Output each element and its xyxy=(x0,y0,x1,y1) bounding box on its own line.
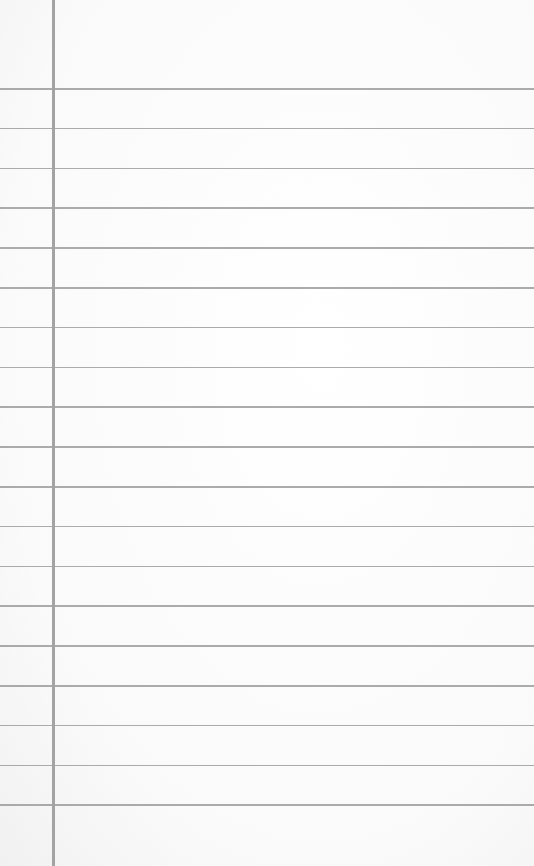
margin-line xyxy=(52,0,55,866)
ruled-line xyxy=(0,645,534,647)
ruled-line xyxy=(0,486,534,488)
ruled-line xyxy=(0,685,534,687)
ruled-line xyxy=(0,566,534,568)
ruled-line xyxy=(0,168,534,170)
ruled-line xyxy=(0,367,534,369)
ruled-line xyxy=(0,526,534,528)
ruled-line xyxy=(0,88,534,90)
ruled-line xyxy=(0,804,534,806)
ruled-line xyxy=(0,207,534,209)
ruled-line xyxy=(0,406,534,408)
ruled-line xyxy=(0,247,534,249)
ruled-line xyxy=(0,446,534,448)
ruled-line xyxy=(0,287,534,289)
ruled-line xyxy=(0,765,534,767)
ruled-line xyxy=(0,605,534,607)
ruled-line xyxy=(0,725,534,727)
ruled-line xyxy=(0,128,534,130)
ruled-line xyxy=(0,327,534,329)
ruled-paper xyxy=(0,0,534,866)
